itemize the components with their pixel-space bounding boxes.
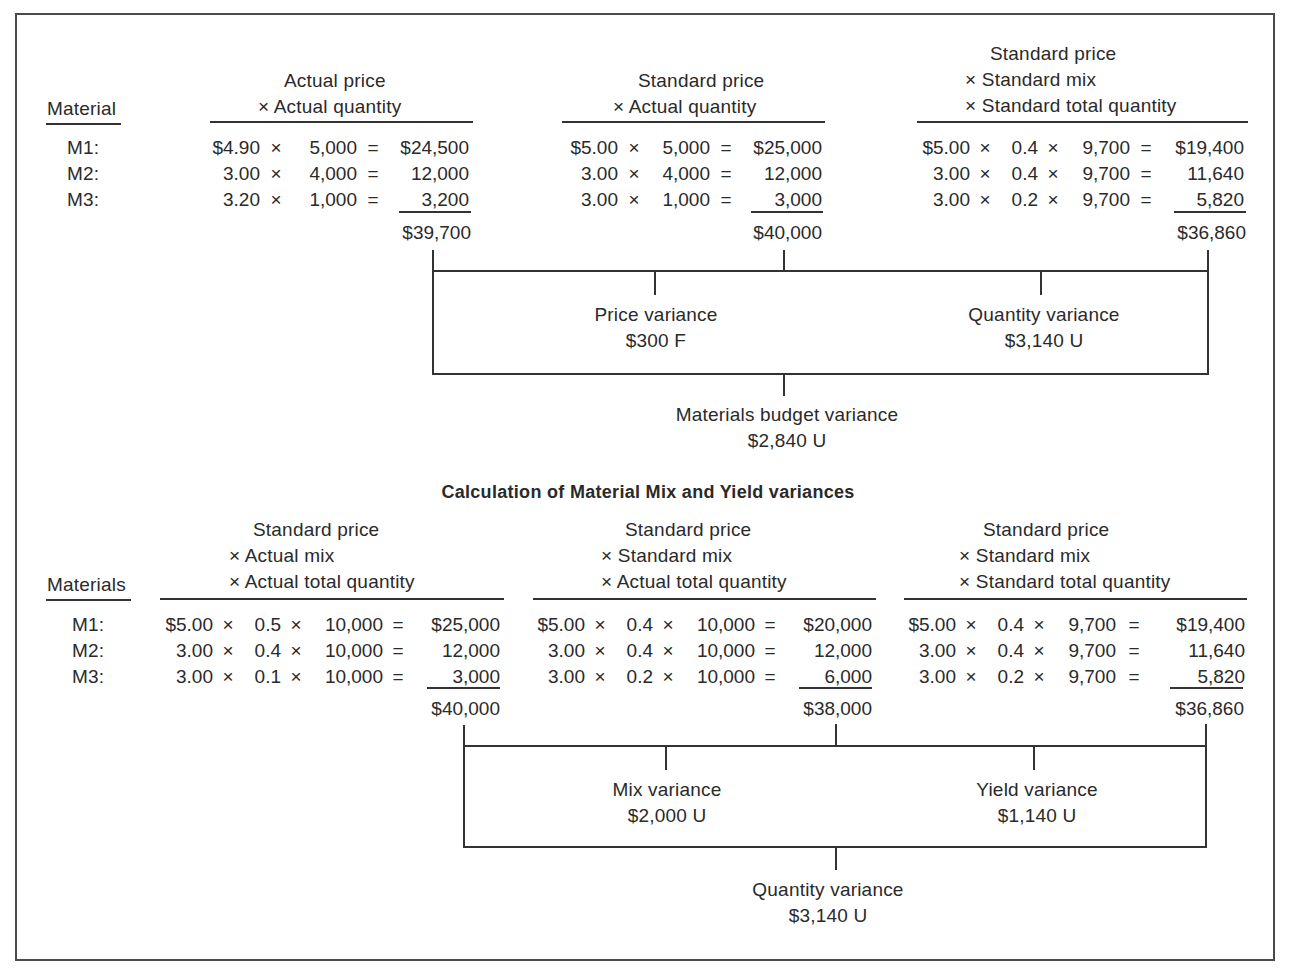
subtotal-rule [1170, 687, 1243, 689]
material-header: Material [47, 98, 116, 120]
column-header-line: × Actual quantity [613, 96, 756, 118]
column-header-line: Standard price [983, 519, 1109, 541]
bracket-tick-mix [665, 746, 667, 770]
subtotal-rule [427, 687, 500, 689]
material-label-m2: M2: [67, 163, 99, 185]
calc-row: $5.00×0.4×9,700=$19,400 [893, 612, 1245, 638]
column-header-rule [917, 121, 1248, 123]
budget-variance-value: $2,840 U [748, 430, 827, 452]
column-header-line: × Standard total quantity [959, 571, 1171, 593]
bracket-tick-total [783, 374, 785, 396]
material-label-m1: M1: [67, 137, 99, 159]
column-header-rule [210, 121, 473, 123]
bracket-top [463, 745, 1207, 747]
column-header-line: Standard price [990, 43, 1116, 65]
bracket-tick-total [835, 847, 837, 870]
column-header-rule [533, 598, 876, 600]
calc-row: 3.20×1,000=3,200 [180, 187, 469, 213]
column-header-line: × Standard mix [959, 545, 1090, 567]
material-label-m2: M2: [72, 640, 104, 662]
calc-row: 3.00×1,000=3,000 [540, 187, 822, 213]
calc-row: $5.00×0.4×9,700=$19,400 [900, 135, 1244, 161]
quantity-variance-total-value: $3,140 U [789, 905, 868, 927]
subtotal-rule [1174, 211, 1246, 213]
section-title: Calculation of Material Mix and Yield va… [441, 482, 854, 503]
yield-variance-value: $1,140 U [998, 805, 1077, 827]
column-header-line: Standard price [638, 70, 764, 92]
calc-row: 3.00×4,000=12,000 [180, 161, 469, 187]
bracket-tick-quantity [1040, 271, 1042, 295]
subtotal-rule [399, 211, 471, 213]
bracket-left [432, 250, 434, 375]
bracket-tick-middle [783, 250, 785, 272]
calc-row: 3.00×4,000=12,000 [540, 161, 822, 187]
bracket-tick-yield [1033, 746, 1035, 770]
column-sum: $36,860 [1144, 698, 1244, 720]
calc-row: 3.00×0.4×10,000=12,000 [522, 638, 872, 664]
quantity-variance-label: Quantity variance [968, 304, 1119, 326]
column-sum: $38,000 [772, 698, 872, 720]
price-variance-label: Price variance [594, 304, 717, 326]
bracket-tick-middle [835, 724, 837, 747]
column-header-line: × Standard total quantity [965, 95, 1177, 117]
column-header-line: Standard price [625, 519, 751, 541]
budget-variance-label: Materials budget variance [676, 404, 899, 426]
calc-row: $5.00×5,000=$25,000 [540, 135, 822, 161]
material-label-m1: M1: [72, 614, 104, 636]
materials-header: Materials [47, 574, 126, 596]
column-header-line: Actual price [284, 70, 386, 92]
calc-row: $4.90×5,000=$24,500 [180, 135, 469, 161]
bracket-left [463, 725, 465, 848]
subtotal-rule [751, 211, 823, 213]
bracket-right [1205, 724, 1207, 848]
calc-row: 3.00×0.4×9,700=11,640 [893, 638, 1245, 664]
calc-row: 3.00×0.4×10,000=12,000 [150, 638, 500, 664]
material-header-underline [46, 123, 121, 125]
material-label-m3: M3: [67, 189, 99, 211]
column-header-line: Standard price [253, 519, 379, 541]
mix-variance-value: $2,000 U [628, 805, 707, 827]
column-header-line: × Actual mix [229, 545, 334, 567]
materials-header-underline [46, 599, 131, 601]
mix-variance-label: Mix variance [612, 779, 721, 801]
bracket-right [1207, 250, 1209, 375]
calc-row: $5.00×0.5×10,000=$25,000 [150, 612, 500, 638]
calc-row: 3.00×0.4×9,700=11,640 [900, 161, 1244, 187]
column-header-rule [562, 121, 825, 123]
column-header-rule [160, 598, 504, 600]
column-header-line: × Actual total quantity [601, 571, 787, 593]
price-variance-value: $300 F [626, 330, 686, 352]
quantity-variance-total-label: Quantity variance [752, 879, 903, 901]
column-sum: $40,000 [722, 222, 822, 244]
column-header-rule [904, 598, 1247, 600]
material-label-m3: M3: [72, 666, 104, 688]
calc-row: $5.00×0.4×10,000=$20,000 [522, 612, 872, 638]
column-sum: $36,860 [1146, 222, 1246, 244]
column-header-line: × Standard mix [965, 69, 1096, 91]
column-header-line: × Actual total quantity [229, 571, 415, 593]
calc-row: 3.00×0.2×9,700=5,820 [900, 187, 1244, 213]
column-header-line: × Standard mix [601, 545, 732, 567]
bracket-tick-price [654, 271, 656, 295]
column-sum: $39,700 [371, 222, 471, 244]
column-sum: $40,000 [400, 698, 500, 720]
quantity-variance-value: $3,140 U [1005, 330, 1084, 352]
yield-variance-label: Yield variance [976, 779, 1097, 801]
bracket-top [432, 270, 1209, 272]
bracket-bottom [432, 373, 1209, 375]
subtotal-rule [799, 687, 872, 689]
column-header-line: × Actual quantity [258, 96, 401, 118]
